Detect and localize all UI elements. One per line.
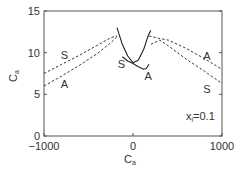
data-series <box>44 28 222 86</box>
series-line <box>149 36 222 69</box>
y-tick-label: 15 <box>28 5 40 17</box>
series-line <box>44 36 117 74</box>
curve-label: S <box>61 49 68 61</box>
series-line <box>122 57 149 70</box>
x-tick-label: −1000 <box>29 140 60 152</box>
curve-label: A <box>203 50 211 62</box>
x-tick-label: 1000 <box>210 140 234 152</box>
chart: 051015−100001000 SASAAS Ca Ca xi=0.1 <box>0 0 243 175</box>
series-line <box>44 37 117 86</box>
axis-ticks: 051015−100001000 <box>28 5 234 152</box>
series-line <box>151 40 222 83</box>
y-tick-label: 10 <box>28 47 40 59</box>
curve-label: S <box>203 83 210 95</box>
curve-label: A <box>144 70 152 82</box>
x-tick-label: 0 <box>130 140 136 152</box>
curve-label: A <box>61 78 69 90</box>
y-tick-label: 5 <box>34 88 40 100</box>
annotation-xi: xi=0.1 <box>186 110 215 123</box>
curve-labels: SASAAS <box>61 49 211 94</box>
curve-label: S <box>118 58 125 70</box>
y-axis-title: Ca <box>7 70 20 82</box>
x-axis-title: Ca <box>124 153 136 166</box>
